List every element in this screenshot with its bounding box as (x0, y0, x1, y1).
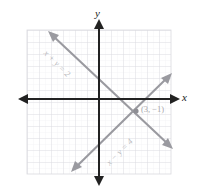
coordinate-plane-svg (0, 0, 198, 187)
intersection-point (133, 108, 138, 113)
graph-figure: y x x + y = 2 x − y = 4 (3, −1) (0, 0, 198, 187)
intersection-point-label: (3, −1) (141, 104, 164, 114)
y-axis-label: y (95, 8, 100, 19)
x-axis-label: x (182, 92, 187, 103)
